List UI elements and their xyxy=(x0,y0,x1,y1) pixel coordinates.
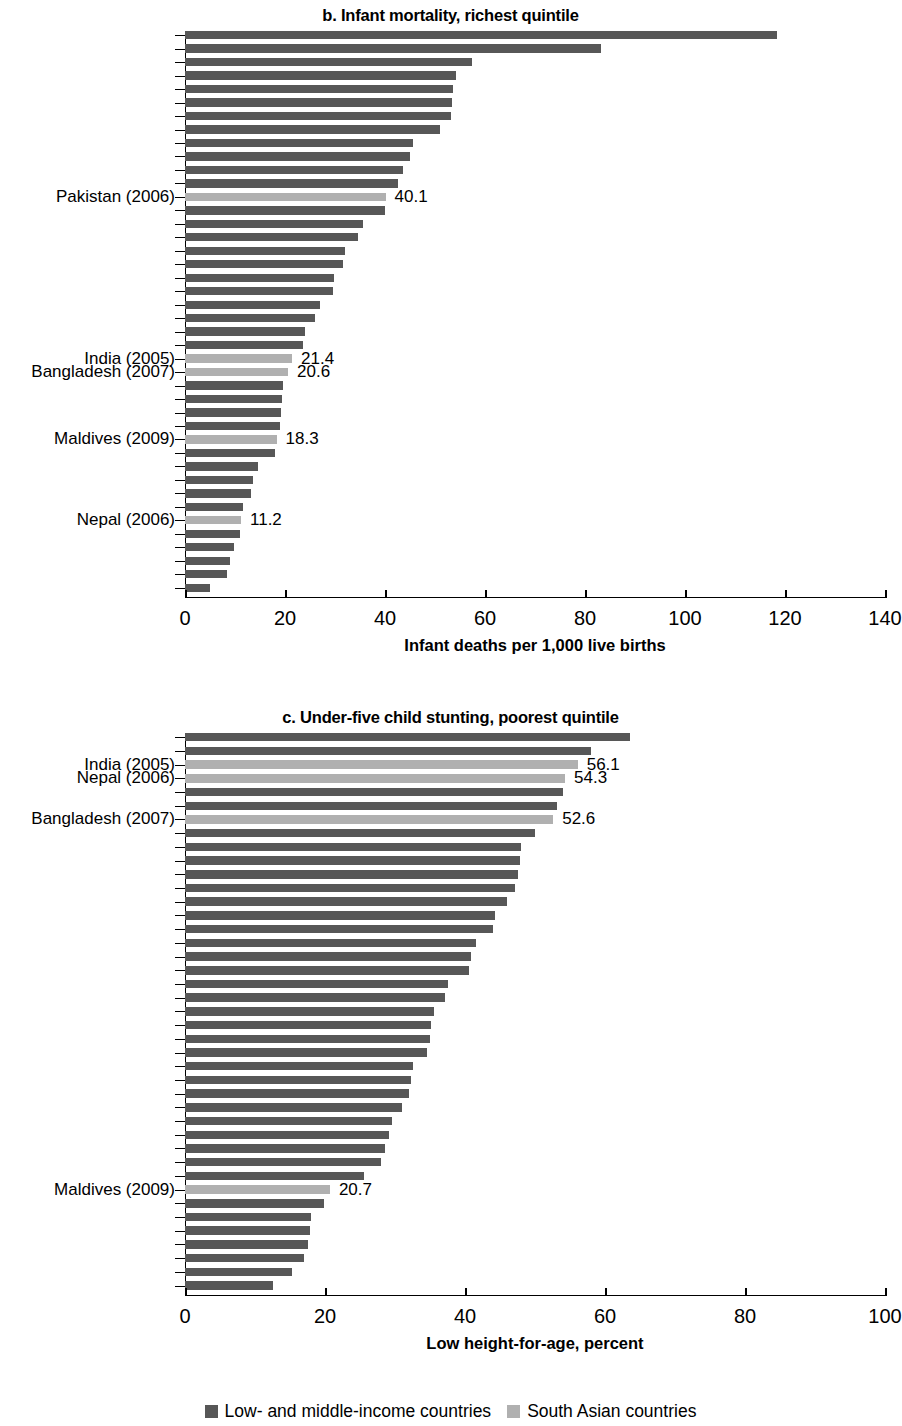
bar xyxy=(185,584,210,592)
bar xyxy=(185,939,476,947)
bar-row xyxy=(185,911,885,919)
y-axis-tick xyxy=(175,1190,185,1191)
x-axis-tick-label: 80 xyxy=(734,1305,756,1328)
y-axis-tick xyxy=(175,413,185,414)
bar-row xyxy=(185,247,885,255)
y-axis-tick xyxy=(175,1258,185,1259)
y-axis-tick xyxy=(175,1135,185,1136)
chart-legend: Low- and middle-income countries South A… xyxy=(0,1401,901,1422)
bar-row xyxy=(185,1007,885,1015)
bar xyxy=(185,897,507,905)
y-axis-tick xyxy=(175,1272,185,1273)
bar-row xyxy=(185,1268,885,1276)
bar-row xyxy=(185,449,885,457)
bar-row xyxy=(185,1158,885,1166)
bar-row xyxy=(185,314,885,322)
y-axis-tick xyxy=(175,588,185,589)
y-axis-tick xyxy=(175,251,185,252)
bar-row xyxy=(185,44,885,52)
bar xyxy=(185,98,452,106)
bar xyxy=(185,1199,324,1207)
y-axis-tick xyxy=(175,970,185,971)
bar-row xyxy=(185,274,885,282)
bar-row xyxy=(185,843,885,851)
bar xyxy=(185,925,493,933)
bar-row xyxy=(185,1048,885,1056)
bar xyxy=(185,193,386,201)
bar-row xyxy=(185,1062,885,1070)
bar xyxy=(185,341,303,349)
bar xyxy=(185,206,385,214)
bar xyxy=(185,1240,308,1248)
bar xyxy=(185,1185,330,1193)
bar xyxy=(185,166,403,174)
bar xyxy=(185,1076,411,1084)
bar-row xyxy=(185,260,885,268)
plot-area-infant-mortality: Pakistan (2006)40.1India (2005)21.4Bangl… xyxy=(185,31,885,597)
bar xyxy=(185,233,358,241)
bar-row xyxy=(185,1035,885,1043)
bar xyxy=(185,301,320,309)
y-axis-tick xyxy=(175,116,185,117)
x-axis-tick xyxy=(605,1288,607,1296)
bar-row xyxy=(185,1131,885,1139)
bar-row: India (2005)56.1 xyxy=(185,760,885,768)
y-axis-tick xyxy=(175,1107,185,1108)
y-axis-tick xyxy=(175,1217,185,1218)
x-axis-tick-label: 40 xyxy=(454,1305,476,1328)
bar xyxy=(185,570,227,578)
bar-row xyxy=(185,476,885,484)
y-axis-tick xyxy=(175,76,185,77)
bar-row xyxy=(185,980,885,988)
bar-country-label: Nepal (2006) xyxy=(77,510,175,530)
bar-value-label: 11.2 xyxy=(250,510,282,530)
x-axis-tick xyxy=(385,590,387,598)
bar-row xyxy=(185,543,885,551)
x-axis-tick xyxy=(465,1288,467,1296)
bar-row xyxy=(185,327,885,335)
bar-row xyxy=(185,939,885,947)
x-axis-tick-label: 0 xyxy=(179,607,190,630)
bar xyxy=(185,980,448,988)
y-axis-tick xyxy=(175,833,185,834)
bar xyxy=(185,381,283,389)
panel-c-title: c. Under-five child stunting, poorest qu… xyxy=(0,700,901,727)
bar xyxy=(185,58,472,66)
bar xyxy=(185,368,288,376)
bar xyxy=(185,1117,392,1125)
bar-row xyxy=(185,152,885,160)
x-axis-tick xyxy=(185,1288,187,1296)
y-axis-tick xyxy=(175,359,185,360)
x-axis-tick xyxy=(585,590,587,598)
x-axis-tick-label: 20 xyxy=(314,1305,336,1328)
bar-value-label: 18.3 xyxy=(286,429,319,449)
bar-row xyxy=(185,179,885,187)
x-axis-tick xyxy=(885,1288,887,1296)
bar-row xyxy=(185,1199,885,1207)
bar-rows-child-stunting: India (2005)56.1Nepal (2006)54.3Banglade… xyxy=(185,733,885,1295)
bar-row xyxy=(185,98,885,106)
bar-row xyxy=(185,829,885,837)
y-axis-tick xyxy=(175,943,185,944)
x-axis-tick-label: 100 xyxy=(668,607,701,630)
bar xyxy=(185,543,234,551)
y-axis-tick xyxy=(175,888,185,889)
bar-row xyxy=(185,220,885,228)
x-axis-tick xyxy=(285,590,287,598)
x-axis-tick xyxy=(745,1288,747,1296)
y-axis-tick xyxy=(175,399,185,400)
bar xyxy=(185,503,243,511)
y-axis-tick xyxy=(175,1066,185,1067)
bar xyxy=(185,1144,385,1152)
y-axis-tick xyxy=(175,1121,185,1122)
bar xyxy=(185,327,305,335)
bar-country-label: Bangladesh (2007) xyxy=(31,809,175,829)
y-axis-tick xyxy=(175,507,185,508)
y-axis-tick xyxy=(175,778,185,779)
bar xyxy=(185,247,345,255)
x-axis-title-c: Low height-for-age, percent xyxy=(185,1334,885,1353)
bar-row xyxy=(185,1240,885,1248)
bar-row xyxy=(185,1089,885,1097)
bar-row xyxy=(185,570,885,578)
y-axis-tick xyxy=(175,130,185,131)
